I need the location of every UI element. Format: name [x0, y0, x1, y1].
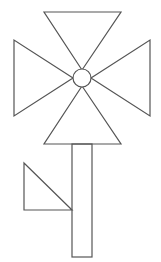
stem-rectangle	[72, 144, 92, 257]
petal-top-triangle	[44, 12, 121, 70]
petal-bottom-triangle	[44, 86, 121, 144]
petal-right-triangle	[91, 40, 150, 116]
flower-center-circle	[73, 69, 91, 87]
leaf-triangle	[24, 163, 72, 210]
petal-left-triangle	[14, 40, 73, 116]
flower-diagram	[0, 0, 161, 262]
